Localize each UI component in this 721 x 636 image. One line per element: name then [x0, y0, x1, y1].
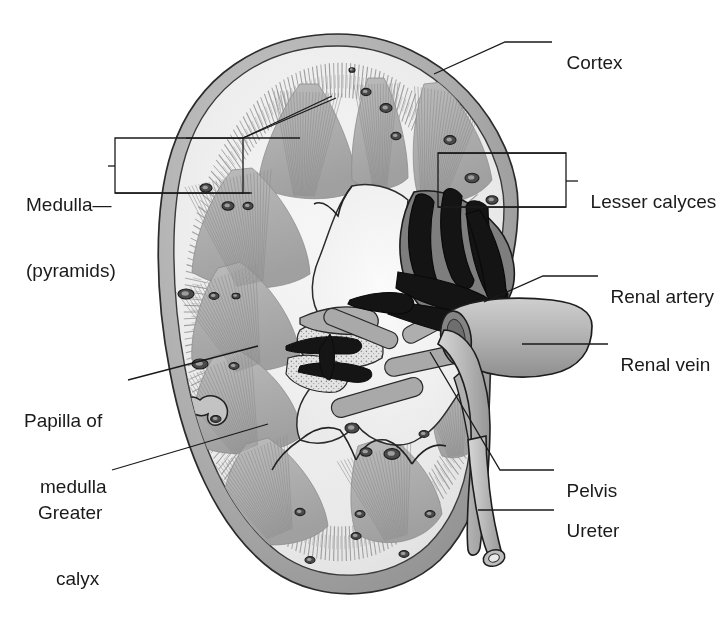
- label-renal-artery-text: Renal artery: [611, 286, 715, 307]
- label-greater-line2: calyx: [38, 568, 102, 590]
- label-renal-vein-text: Renal vein: [621, 354, 711, 375]
- label-renal-artery: Renal artery: [600, 264, 714, 308]
- label-pelvis: Pelvis: [556, 458, 617, 502]
- label-lesser-calyces: Lesser calyces: [580, 169, 716, 213]
- label-papilla-line1: Papilla of: [24, 410, 107, 432]
- label-renal-vein: Renal vein: [610, 332, 710, 376]
- label-lesser-calyces-text: Lesser calyces: [591, 191, 717, 212]
- kidney-figure: Cortex Medulla— (pyramids) Lesser calyce…: [0, 0, 721, 636]
- cortex-leader: [434, 42, 552, 74]
- label-cortex: Cortex: [556, 30, 623, 74]
- label-cortex-text: Cortex: [567, 52, 623, 73]
- label-greater-calyx: Greater calyx: [38, 458, 102, 612]
- label-medulla-line1: Medulla—: [26, 194, 116, 216]
- label-medulla: Medulla— (pyramids): [26, 150, 116, 304]
- label-greater-line1: Greater: [38, 502, 102, 524]
- label-ureter: Ureter: [556, 498, 619, 542]
- label-ureter-text: Ureter: [567, 520, 620, 541]
- label-medulla-line2: (pyramids): [26, 260, 116, 282]
